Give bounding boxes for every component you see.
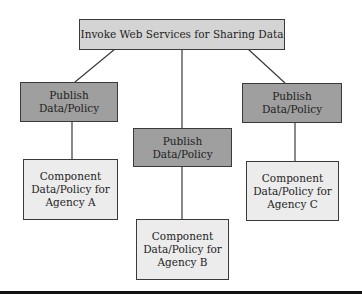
component-node-a-line2: Data/Policy for: [31, 183, 110, 196]
connector-root-to-publish-c: [248, 49, 285, 83]
root-node-invoke-web-services: Invoke Web Services for Sharing Data: [79, 19, 285, 50]
component-node-agency-a: Component Data/Policy for Agency A: [23, 159, 118, 220]
publish-node-c-line1: Publish: [262, 90, 322, 103]
component-node-c-line3: Agency C: [253, 198, 332, 211]
component-node-c-line2: Data/Policy for: [253, 185, 332, 198]
component-node-b-line3: Agency B: [143, 256, 222, 269]
bottom-rule-divider: [0, 291, 362, 294]
component-node-b-line1: Component: [143, 230, 222, 243]
component-node-a-line1: Component: [31, 170, 110, 183]
publish-node-c-line2: Data/Policy: [262, 103, 322, 116]
publish-node-a-line2: Data/Policy: [39, 102, 99, 115]
root-node-label: Invoke Web Services for Sharing Data: [81, 28, 284, 41]
publish-node-a-line1: Publish: [39, 89, 99, 102]
component-node-agency-b: Component Data/Policy for Agency B: [136, 219, 229, 280]
publish-node-b: Publish Data/Policy: [133, 128, 232, 167]
publish-node-b-line2: Data/Policy: [152, 148, 212, 161]
component-node-a-line3: Agency A: [31, 196, 110, 209]
publish-node-a: Publish Data/Policy: [20, 82, 118, 122]
component-node-c-line1: Component: [253, 172, 332, 185]
publish-node-b-line1: Publish: [152, 135, 212, 148]
publish-node-c: Publish Data/Policy: [242, 83, 342, 123]
component-node-agency-c: Component Data/Policy for Agency C: [246, 161, 339, 221]
connector-root-to-publish-a: [75, 49, 115, 82]
component-node-b-line2: Data/Policy for: [143, 243, 222, 256]
web-services-hierarchy-diagram: Invoke Web Services for Sharing Data Pub…: [0, 0, 362, 296]
